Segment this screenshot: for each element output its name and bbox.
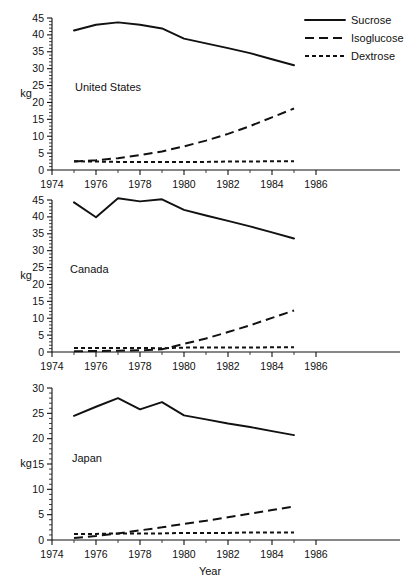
y-tick-label: 5 <box>38 508 44 520</box>
x-tick-label: 1984 <box>260 178 284 190</box>
x-tick-label: 1974 <box>40 548 64 560</box>
x-tick-label: 1976 <box>84 360 108 372</box>
series-line-dextrose <box>74 161 294 162</box>
x-axis-title: Year <box>199 565 222 577</box>
y-tick-label: 45 <box>32 12 44 24</box>
chart-svg: 0510152025303540451974197619781980198219… <box>0 0 420 588</box>
x-tick-label: 1982 <box>216 548 240 560</box>
x-tick-label: 1980 <box>172 178 196 190</box>
panel-japan: 0510152025301974197619781980198219841986… <box>20 382 400 560</box>
y-tick-label: 35 <box>32 227 44 239</box>
x-tick-label: 1982 <box>216 360 240 372</box>
series-line-isoglucose <box>74 109 294 162</box>
y-tick-label: 40 <box>32 210 44 222</box>
x-tick-label: 1978 <box>128 360 152 372</box>
y-tick-label: 30 <box>32 382 44 394</box>
x-tick-label: 1974 <box>40 360 64 372</box>
y-tick-label: 45 <box>32 194 44 206</box>
legend: SucroseIsoglucoseDextrose <box>305 14 404 62</box>
y-tick-label: 0 <box>38 164 44 176</box>
x-tick-label: 1984 <box>260 548 284 560</box>
series-line-dextrose <box>74 347 294 348</box>
series-line-sucrose <box>74 398 294 435</box>
y-axis-title: kg <box>20 269 32 281</box>
y-tick-label: 20 <box>32 96 44 108</box>
x-tick-label: 1986 <box>304 360 328 372</box>
y-tick-label: 10 <box>32 312 44 324</box>
y-tick-label: 30 <box>32 62 44 74</box>
y-tick-label: 10 <box>32 483 44 495</box>
y-tick-label: 10 <box>32 130 44 142</box>
y-tick-label: 15 <box>32 113 44 125</box>
y-tick-label: 0 <box>38 534 44 546</box>
series-line-sucrose <box>74 198 294 238</box>
y-tick-label: 30 <box>32 244 44 256</box>
y-axis-title: kg <box>20 87 32 99</box>
x-tick-label: 1986 <box>304 178 328 190</box>
chart-figure: 0510152025303540451974197619781980198219… <box>0 0 420 588</box>
panel-canada: 0510152025303540451974197619781980198219… <box>20 194 400 372</box>
panel-label-canada: Canada <box>70 263 109 275</box>
x-tick-label: 1976 <box>84 548 108 560</box>
y-tick-label: 0 <box>38 346 44 358</box>
y-tick-label: 15 <box>32 458 44 470</box>
y-tick-label: 15 <box>32 295 44 307</box>
legend-label-sucrose: Sucrose <box>351 14 391 26</box>
x-tick-label: 1984 <box>260 360 284 372</box>
series-line-isoglucose <box>74 507 294 538</box>
y-tick-label: 25 <box>32 261 44 273</box>
series-line-sucrose <box>74 22 294 65</box>
y-tick-label: 20 <box>32 278 44 290</box>
x-tick-label: 1976 <box>84 178 108 190</box>
y-tick-label: 25 <box>32 79 44 91</box>
x-tick-label: 1986 <box>304 548 328 560</box>
x-tick-label: 1980 <box>172 360 196 372</box>
panel-label-united-states: United States <box>75 81 142 93</box>
x-tick-label: 1974 <box>40 178 64 190</box>
y-tick-label: 5 <box>38 147 44 159</box>
y-tick-label: 5 <box>38 329 44 341</box>
x-tick-label: 1982 <box>216 178 240 190</box>
series-line-isoglucose <box>74 310 294 351</box>
legend-label-isoglucose: Isoglucose <box>351 32 404 44</box>
y-tick-label: 35 <box>32 45 44 57</box>
y-tick-label: 20 <box>32 432 44 444</box>
x-tick-label: 1978 <box>128 548 152 560</box>
y-tick-label: 25 <box>32 407 44 419</box>
x-tick-label: 1980 <box>172 548 196 560</box>
x-tick-label: 1978 <box>128 178 152 190</box>
y-tick-label: 40 <box>32 28 44 40</box>
panel-label-japan: Japan <box>72 452 102 464</box>
y-axis-title: kg <box>20 457 32 469</box>
panel-united-states: 0510152025303540451974197619781980198219… <box>20 12 400 190</box>
legend-label-dextrose: Dextrose <box>351 50 395 62</box>
